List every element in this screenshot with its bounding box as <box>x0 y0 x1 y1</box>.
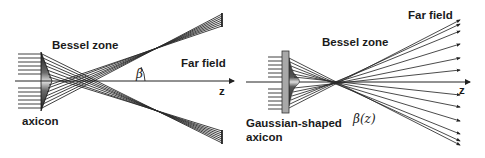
axicon-plate <box>282 51 289 113</box>
gaussian-axicon-label-line2: axicon <box>246 132 282 144</box>
downward-rays <box>289 58 460 145</box>
z-axis-label: z <box>459 85 465 97</box>
bessel-zone-label: Bessel zone <box>52 40 118 52</box>
gaussian-axicon-panel: Far field Bessel zone z β(z) Gaussian-sh… <box>240 0 485 158</box>
conventional-axicon-drawing <box>0 0 245 158</box>
beta-z-angle-label: β(z) <box>353 113 376 125</box>
far-field-label: Far field <box>181 58 226 70</box>
far-field-label: Far field <box>408 10 453 22</box>
gaussian-axicon-label-line1: Gaussian-shaped <box>246 118 342 130</box>
axicon-label: axicon <box>22 116 58 128</box>
conventional-axicon-panel: Bessel zone Far field β z axicon <box>0 0 245 158</box>
bessel-zone-label: Bessel zone <box>322 37 388 49</box>
z-axis-label: z <box>219 86 225 98</box>
beta-angle-label: β <box>136 68 143 80</box>
